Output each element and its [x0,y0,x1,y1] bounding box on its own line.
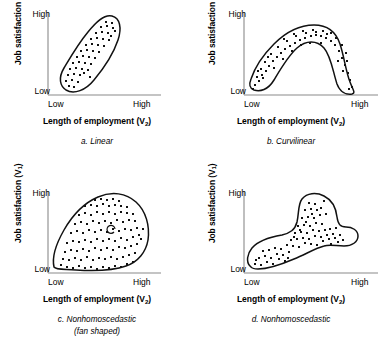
panel-d-x-axis-title: Length of employment (V2) [194,294,388,305]
panel-a-y-tick-low: Low [20,86,50,96]
panel-c-x-tick-high: High [133,277,150,287]
panel-a-plot-area: Job satisfaction (V1) High Low Low High [0,0,194,110]
panel-a-x-tick-high: High [133,99,150,109]
panel-a-x-tick-low: Low [48,99,64,109]
panel-d-x-tick-high: High [351,277,368,287]
panel-c-y-tick-low: Low [20,264,50,274]
panel-c-nonhomoscedastic-fan: Job satisfaction (V1) High Low Low High [0,170,194,280]
panel-a-x-axis-title: Length of employment (V2) [0,116,194,127]
panel-b-y-tick-high: High [216,9,246,19]
panel-a-y-tick-high: High [20,9,50,19]
panel-d-caption: d. Nonhomoscedastic [194,315,388,324]
panel-d-axes [244,191,378,273]
panel-b-y-tick-low: Low [216,86,246,96]
panel-b-envelope [250,25,354,94]
panel-c-envelope [53,194,148,271]
panel-d-x-tick-low: Low [244,277,260,287]
figure-container: Job satisfaction (V1) High Low Low High [0,0,388,351]
panel-c-x-axis-title: Length of employment (V2) [0,294,194,305]
panel-b-plot-area: Job satisfaction (V1) High Low Low High [194,0,388,110]
panel-d-envelope [248,194,358,269]
panel-a-caption: a. Linear [0,137,194,146]
panel-b-x-axis-title: Length of employment (V2) [194,116,388,127]
panel-a-linear: Job satisfaction (V1) High Low Low High [0,0,194,110]
panel-d-nonhomoscedastic: Job satisfaction (V1) High Low Low High [194,170,388,280]
panel-b-caption: b. Curvilinear [194,137,388,146]
panel-c-axes [48,191,161,273]
panel-c-caption: c. Nonhomoscedastic [0,315,194,324]
panel-c-data-points [60,198,144,270]
panel-c-y-axis-title: Job satisfaction (V1) [13,159,24,247]
panel-d-y-tick-low: Low [216,264,246,274]
panel-d-plot-area: Job satisfaction (V1) High Low Low High [194,170,388,280]
panel-b-curvilinear: Job satisfaction (V1) High Low Low High [194,0,388,110]
panel-b-x-tick-high: High [351,99,368,109]
panel-d-y-axis-title: Job satisfaction (V1) [207,159,218,247]
panel-a-envelope [60,16,120,92]
panel-c-x-tick-low: Low [48,277,64,287]
panel-c-caption-line2: (fan shaped) [0,327,194,336]
panel-d-y-tick-high: High [216,188,246,198]
panel-c-plot-area: Job satisfaction (V1) High Low Low High [0,170,194,280]
panel-a-axes [48,12,161,95]
panel-c-y-tick-high: High [20,188,50,198]
panel-b-x-tick-low: Low [244,99,260,109]
